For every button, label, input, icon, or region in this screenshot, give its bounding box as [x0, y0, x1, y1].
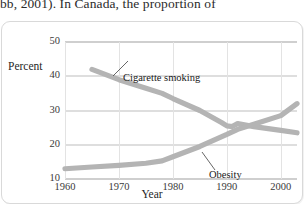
plot-area	[65, 42, 297, 179]
y-tick-label: 50	[38, 35, 60, 46]
x-tick-label: 1980	[156, 181, 190, 192]
x-axis-title: Year	[2, 188, 302, 200]
annotation-leader-lines	[65, 42, 297, 179]
x-tick-label: 1990	[210, 181, 244, 192]
figure-page: bb, 2001). In Canada, the proportion of …	[0, 0, 306, 204]
x-tick-label: 2000	[264, 181, 298, 192]
x-tick-label: 1960	[48, 181, 82, 192]
y-tick-label: 30	[38, 104, 60, 115]
annotation-cigarette-smoking: Cigarette smoking	[123, 72, 200, 83]
annotation-obesity: Obesity	[209, 169, 242, 180]
leader-line-obesity	[202, 152, 215, 170]
x-tick-label: 1970	[102, 181, 136, 192]
page-body-text: bb, 2001). In Canada, the proportion of	[0, 0, 306, 16]
figure-frame: Percent Year 1020304050 1960197019801990…	[1, 21, 303, 204]
y-tick-label: 20	[38, 138, 60, 149]
y-tick-label: 40	[38, 69, 60, 80]
